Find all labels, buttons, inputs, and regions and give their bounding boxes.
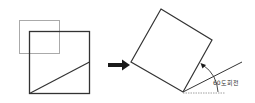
arc-arrowhead-icon <box>201 63 207 69</box>
rotation-diagram: 60도회전 <box>0 0 255 103</box>
square-diagonal <box>30 62 90 94</box>
crop-frame <box>20 21 60 54</box>
right-arrow-icon <box>108 60 130 71</box>
rotated-square <box>131 9 212 92</box>
angle-label: 60도회전 <box>213 79 239 87</box>
